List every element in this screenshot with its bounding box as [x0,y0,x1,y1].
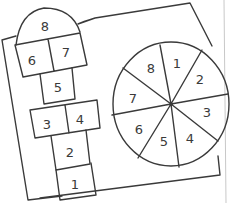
hopscotch-square-4: 4 [76,112,84,127]
hopscotch-square-7: 7 [62,45,70,60]
spinner-slice-6: 6 [135,122,143,137]
spinner-slice-1: 1 [173,56,181,71]
hopscotch-square-6: 6 [28,53,36,68]
spinner-slice-3: 3 [203,105,211,120]
hopscotch-square-5: 5 [54,80,62,95]
hopscotch-square-2: 2 [66,145,74,160]
hopscotch-board: 8 6 7 5 3 4 2 1 [15,8,100,200]
spinner-slice-8: 8 [147,61,155,76]
page-edge-line [224,0,226,203]
hopscotch-square-1: 1 [71,177,79,192]
spinner-slice-7: 7 [129,91,137,106]
hopscotch-square-3: 3 [43,117,51,132]
spinner-slice-5: 5 [160,134,168,149]
hopscotch-square-8: 8 [41,19,49,34]
drawing-canvas: 8 6 7 5 3 4 2 1 8 1 2 3 4 5 6 7 [0,0,234,203]
spinner-wheel: 8 1 2 3 4 5 6 7 [112,42,229,167]
spinner-slice-4: 4 [186,131,194,146]
spinner-slice-2: 2 [196,72,204,87]
